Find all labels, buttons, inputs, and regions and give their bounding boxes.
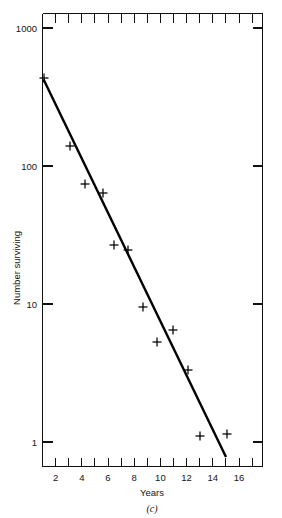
xtick-label: 12 — [181, 472, 192, 483]
xtick-label: 14 — [208, 472, 219, 483]
chart-svg: 1000 100 10 1 2 4 6 8 10 12 14 16 Years … — [0, 0, 282, 518]
x-axis-title: Years — [140, 487, 164, 498]
y-axis-title: Number surviving — [11, 231, 22, 305]
ytick-label: 1000 — [16, 23, 37, 34]
survival-curve-figure: 1000 100 10 1 2 4 6 8 10 12 14 16 Years … — [0, 0, 282, 518]
data-point — [169, 326, 178, 335]
data-point — [196, 432, 205, 441]
data-point — [153, 338, 162, 347]
xaxis-tick-labels: 2 4 6 8 10 12 14 16 — [53, 472, 244, 483]
ytick-label: 100 — [21, 161, 37, 172]
xtick-label: 4 — [79, 472, 84, 483]
data-point — [223, 430, 232, 439]
data-point — [81, 180, 90, 189]
xtick-label: 8 — [132, 472, 137, 483]
fitted-line — [44, 80, 226, 458]
data-point — [139, 303, 148, 312]
xtick-label: 10 — [155, 472, 166, 483]
yaxis-right-ticks — [253, 28, 263, 442]
ytick-label: 10 — [26, 299, 37, 310]
panel-label: (c) — [146, 503, 158, 515]
data-point — [110, 241, 119, 250]
ytick-label: 1 — [32, 437, 37, 448]
xtick-label: 2 — [53, 472, 58, 483]
xtick-label: 6 — [105, 472, 110, 483]
plot-frame — [43, 14, 263, 467]
data-point — [40, 74, 49, 83]
xaxis-bottom-ticks — [56, 458, 253, 467]
xtick-label: 16 — [234, 472, 245, 483]
xaxis-top-ticks — [56, 14, 253, 23]
